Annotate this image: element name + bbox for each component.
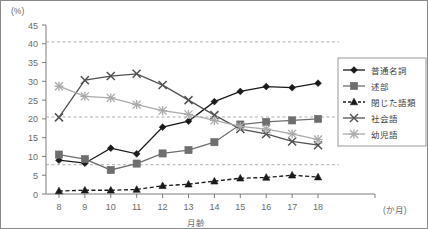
data-point-asterisk (80, 92, 89, 101)
series-3 (55, 70, 322, 149)
data-point-asterisk (54, 82, 63, 91)
data-point-asterisk (288, 129, 297, 138)
data-point-asterisk (236, 122, 245, 131)
legend-label-2: 閉じた語類 (371, 98, 416, 108)
data-point-x (55, 113, 63, 121)
data-point-diamond (263, 83, 270, 90)
data-point-square (107, 166, 114, 173)
series-2 (55, 171, 321, 193)
data-point-asterisk (262, 125, 271, 134)
x-tick-label: 15 (235, 202, 245, 212)
data-point-square (159, 150, 166, 157)
y-axis-unit-label: (%) (11, 6, 24, 16)
y-tick-label: 20 (28, 114, 38, 124)
data-point-square (55, 151, 62, 158)
y-tick-label: 25 (28, 96, 38, 106)
legend-label-0: 普通名詞 (371, 66, 407, 76)
data-point-square (263, 118, 270, 125)
y-axis-tick-labels: 051015202530354045 (28, 21, 38, 200)
data-point-asterisk (158, 106, 167, 115)
y-tick-label: 30 (28, 77, 38, 87)
x-tick-label: 10 (106, 202, 116, 212)
data-point-square (211, 139, 218, 146)
data-point-asterisk (210, 116, 219, 125)
chart-container: 051015202530354045 89101112131415161718 … (0, 0, 428, 229)
chart-legend: 普通名詞述部閉じた語類社会語幼児語 (338, 58, 426, 146)
data-point-x (185, 96, 193, 104)
data-point-square (314, 115, 321, 122)
data-point-square (81, 155, 88, 162)
y-tick-label: 45 (28, 21, 38, 31)
series-4 (54, 82, 322, 144)
x-axis-title: 月齢 (187, 218, 205, 228)
data-point-triangle (289, 171, 296, 178)
data-point-asterisk (106, 93, 115, 102)
x-tick-label: 11 (132, 202, 141, 212)
legend-label-3: 社会語 (371, 114, 398, 124)
y-tick-label: 40 (28, 39, 38, 49)
data-point-diamond (237, 88, 244, 95)
legend-label-4: 幼児語 (371, 130, 398, 140)
x-tick-label: 16 (261, 202, 271, 212)
x-tick-label: 12 (158, 202, 168, 212)
data-point-asterisk (350, 130, 359, 139)
legend-label-1: 述部 (371, 82, 389, 92)
data-point-asterisk (184, 110, 193, 119)
x-axis-tick-labels: 89101112131415161718 (56, 202, 323, 212)
line-chart: 051015202530354045 89101112131415161718 … (1, 1, 428, 229)
data-point-diamond (289, 84, 296, 91)
y-tick-label: 15 (28, 133, 38, 143)
chart-series (54, 70, 322, 194)
data-point-diamond (107, 145, 114, 152)
data-point-asterisk (132, 100, 141, 109)
x-tick-label: 17 (287, 202, 297, 212)
x-tick-label: 14 (209, 202, 219, 212)
y-tick-label: 5 (33, 171, 38, 181)
data-point-square (185, 146, 192, 153)
x-tick-label: 18 (313, 202, 323, 212)
y-tick-label: 0 (33, 190, 38, 200)
y-tick-label: 10 (28, 152, 38, 162)
x-axis-unit-label: (か月) (383, 205, 407, 215)
x-tick-label: 8 (56, 202, 61, 212)
data-point-asterisk (314, 135, 323, 144)
data-point-square (133, 160, 140, 167)
y-tick-label: 35 (28, 58, 38, 68)
x-tick-label: 9 (82, 202, 87, 212)
x-tick-label: 13 (183, 202, 193, 212)
data-point-square (289, 117, 296, 124)
data-point-diamond (315, 80, 322, 87)
data-point-x (159, 81, 167, 89)
data-point-square (350, 82, 357, 89)
